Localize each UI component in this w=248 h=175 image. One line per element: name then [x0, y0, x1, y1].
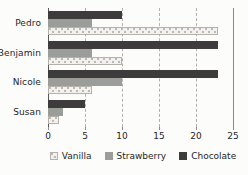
y-axis-category-labels: PedroBenjaminNicoleSusan — [0, 8, 45, 127]
bar-pedro-chocolate — [48, 11, 122, 19]
x-tick-label-0: 0 — [45, 131, 51, 141]
category-label-pedro: Pedro — [0, 8, 45, 38]
x-tick-mark-25 — [233, 127, 234, 130]
x-tick-label-10: 10 — [116, 131, 127, 141]
bar-benjamin-vanilla — [48, 57, 122, 65]
bar-nicole-strawberry — [48, 78, 122, 86]
category-label-benjamin: Benjamin — [0, 38, 45, 68]
plot-end-line — [233, 8, 234, 130]
x-tick-label-20: 20 — [190, 131, 201, 141]
bar-group-pedro — [48, 8, 233, 38]
legend-item-strawberry: Strawberry — [105, 151, 167, 161]
bar-group-susan — [48, 97, 233, 127]
legend-label-strawberry: Strawberry — [117, 151, 167, 161]
x-tick-label-25: 25 — [227, 131, 238, 141]
bar-groups — [48, 8, 233, 127]
grouped-bar-chart: PedroBenjaminNicoleSusan 0510152025 Vani… — [0, 0, 248, 175]
x-tick-mark-15 — [159, 127, 160, 130]
bar-nicole-vanilla — [48, 86, 92, 94]
legend-swatch-chocolate — [179, 152, 187, 160]
x-tick-mark-10 — [122, 127, 123, 130]
bar-susan-vanilla — [48, 116, 59, 124]
bar-group-nicole — [48, 68, 233, 98]
bar-benjamin-strawberry — [48, 49, 92, 57]
x-tick-label-15: 15 — [153, 131, 164, 141]
bar-nicole-chocolate — [48, 70, 218, 78]
legend: VanillaStrawberryChocolate — [40, 151, 246, 161]
legend-label-vanilla: Vanilla — [62, 151, 92, 161]
legend-swatch-vanilla — [50, 152, 58, 160]
legend-item-chocolate: Chocolate — [179, 151, 236, 161]
bar-susan-chocolate — [48, 100, 85, 108]
x-tick-mark-20 — [196, 127, 197, 130]
category-label-susan: Susan — [0, 97, 45, 127]
x-tick-mark-5 — [85, 127, 86, 130]
bar-pedro-strawberry — [48, 19, 92, 27]
x-tick-label-5: 5 — [82, 131, 88, 141]
legend-swatch-strawberry — [105, 152, 113, 160]
x-tick-mark-0 — [48, 127, 49, 130]
legend-item-vanilla: Vanilla — [50, 151, 92, 161]
plot-area — [48, 8, 233, 127]
category-label-nicole: Nicole — [0, 68, 45, 98]
bar-pedro-vanilla — [48, 27, 218, 35]
legend-label-chocolate: Chocolate — [191, 151, 236, 161]
bar-group-benjamin — [48, 38, 233, 68]
bar-susan-strawberry — [48, 108, 63, 116]
x-axis: 0510152025 — [48, 127, 233, 143]
bar-benjamin-chocolate — [48, 41, 218, 49]
